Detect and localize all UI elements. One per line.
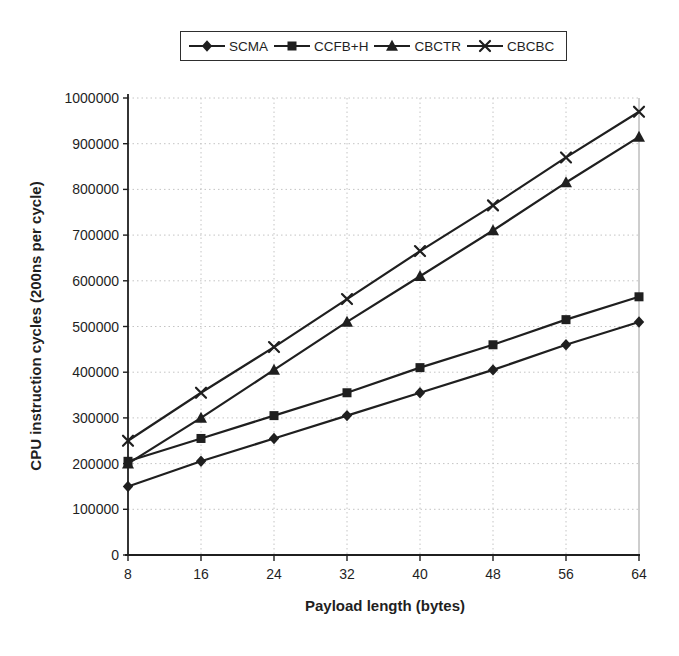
y-tick-label: 200000 — [72, 456, 119, 472]
chart-figure: 0100000200000300000400000500000600000700… — [0, 0, 679, 656]
line-chart: 0100000200000300000400000500000600000700… — [0, 0, 679, 656]
legend-item-ccfb-h: CCFB+H — [273, 38, 373, 54]
diamond-marker-icon — [196, 456, 206, 467]
square-marker-icon — [270, 411, 279, 420]
x-tick-label: 32 — [339, 566, 355, 582]
triangle-legend-marker-icon — [373, 38, 411, 54]
diamond-marker-icon — [415, 387, 425, 398]
legend-label: SCMA — [229, 39, 268, 54]
series-cbctr — [122, 131, 645, 469]
y-tick-label: 300000 — [72, 410, 119, 426]
legend-item-cbcbc: CBCBC — [466, 38, 559, 54]
y-tick-label: 600000 — [72, 273, 119, 289]
y-tick-label: 800000 — [72, 181, 119, 197]
tick-labels: 0100000200000300000400000500000600000700… — [64, 90, 647, 582]
diamond-marker-icon — [123, 481, 133, 492]
square-legend-marker-icon — [273, 38, 311, 54]
y-tick-label: 700000 — [72, 227, 119, 243]
diamond-marker-icon — [634, 316, 644, 327]
x-legend-marker-icon — [466, 38, 504, 54]
triangle-marker-icon — [560, 176, 572, 187]
diamond-marker-icon — [342, 410, 352, 421]
square-marker-icon — [197, 434, 206, 443]
triangle-marker-icon — [633, 131, 645, 142]
diamond-legend-marker-icon — [188, 38, 226, 54]
y-tick-label: 900000 — [72, 136, 119, 152]
square-marker-icon — [489, 340, 498, 349]
triangle-marker-icon — [341, 316, 353, 327]
chart-legend: SCMACCFB+HCBCTRCBCBC — [180, 31, 567, 61]
legend-item-cbctr: CBCTR — [373, 38, 466, 54]
square-marker-icon — [416, 363, 425, 372]
x-tick-label: 56 — [558, 566, 574, 582]
square-marker-icon — [562, 315, 571, 324]
gridlines — [128, 98, 639, 555]
x-axis-title: Payload length (bytes) — [305, 597, 465, 614]
series-ccfb-h — [124, 292, 644, 466]
y-axis-title: CPU instruction cycles (200ns per cycle) — [27, 181, 44, 470]
diamond-marker-icon — [202, 40, 212, 51]
y-tick-label: 0 — [111, 547, 119, 563]
legend-label: CBCBC — [507, 39, 554, 54]
y-tick-label: 500000 — [72, 319, 119, 335]
triangle-marker-icon — [268, 364, 280, 375]
y-tick-label: 400000 — [72, 364, 119, 380]
x-marker-icon — [342, 294, 352, 304]
x-tick-label: 40 — [412, 566, 428, 582]
legend-item-scma: SCMA — [188, 38, 273, 54]
triangle-marker-icon — [487, 224, 499, 235]
x-tick-label: 8 — [124, 566, 132, 582]
triangle-marker-icon — [414, 270, 426, 281]
square-marker-icon — [343, 388, 352, 397]
legend-label: CBCTR — [414, 39, 461, 54]
diamond-marker-icon — [269, 433, 279, 444]
x-tick-label: 24 — [266, 566, 282, 582]
x-tick-label: 48 — [485, 566, 501, 582]
square-marker-icon — [635, 292, 644, 301]
data-series — [122, 107, 645, 492]
x-tick-label: 64 — [631, 566, 647, 582]
square-marker-icon — [288, 42, 297, 51]
x-tick-label: 16 — [193, 566, 209, 582]
triangle-marker-icon — [195, 412, 207, 423]
x-marker-icon — [561, 152, 571, 162]
diamond-marker-icon — [488, 364, 498, 375]
y-tick-label: 100000 — [72, 501, 119, 517]
y-tick-label: 1000000 — [64, 90, 119, 106]
legend-label: CCFB+H — [314, 39, 368, 54]
diamond-marker-icon — [561, 339, 571, 350]
